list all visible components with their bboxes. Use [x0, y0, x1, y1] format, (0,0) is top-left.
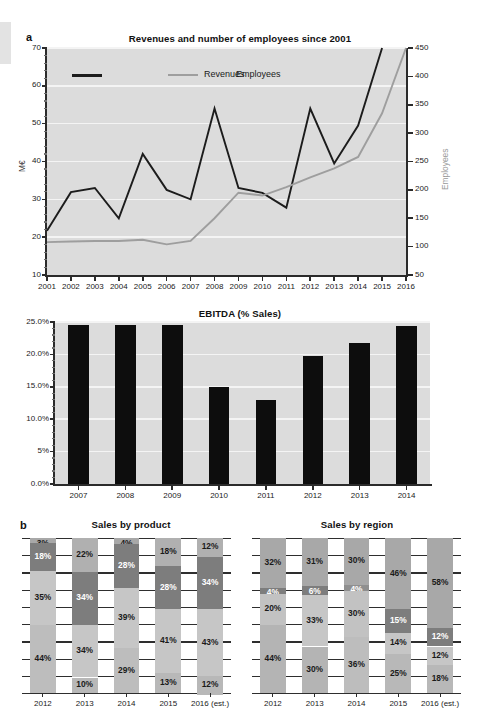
sales-by-region-segment-label: 58% — [427, 578, 453, 586]
sales-by-region-stack: 30%4%30%36% — [344, 538, 370, 693]
ebitda-plot-area — [55, 322, 430, 484]
legend-swatch-employees — [168, 74, 198, 76]
ebitda-x-tick-label: 2013 — [338, 491, 382, 500]
ebitda-y-minor-tick — [52, 341, 55, 342]
ebitda-bar — [115, 325, 136, 484]
ebitda-y-minor-tick — [52, 438, 55, 439]
panel-b-letter: b — [20, 519, 27, 531]
y-tick-label-left: 10 — [11, 270, 41, 279]
sales-by-product-segment: 44% — [30, 625, 56, 693]
sales-by-region-segment-label: 30% — [344, 609, 370, 617]
sales-by-region-stack: 58%12%12%18% — [427, 538, 453, 693]
sales-by-region-title: Sales by region — [262, 519, 452, 530]
ebitda-y-minor-tick — [52, 470, 55, 471]
ebitda-y-minor-tick — [52, 399, 55, 400]
legend-swatch-revenues — [72, 74, 102, 77]
sales-by-region-segment-label: 14% — [385, 638, 411, 646]
y-tick-label-right: 350 — [415, 99, 445, 108]
sales-by-region-stack: 32%4%20%44% — [260, 538, 286, 693]
sales-by-product-segment-label: 22% — [72, 550, 98, 558]
sales-by-region-segment-label: 15% — [385, 616, 411, 624]
ebitda-y-minor-tick — [52, 328, 55, 329]
ebitda-y-minor-tick — [52, 432, 55, 433]
sales-by-product-segment: 34% — [72, 572, 98, 625]
y-tick-label-left: 50 — [11, 118, 41, 127]
ebitda-y-minor-tick — [52, 347, 55, 348]
y-axis-left-title: M€ — [17, 160, 27, 172]
sales-by-region-segment: 12% — [427, 628, 453, 647]
ebitda-y-minor-tick — [52, 367, 55, 368]
sales-by-product-segment: 35% — [30, 571, 56, 625]
sales-by-region-stack: 31%6%33%30% — [302, 538, 328, 693]
sales-by-product-stack: 12%34%43%12% — [197, 538, 223, 693]
sales-by-product-stack: 4%28%39%29% — [114, 538, 140, 693]
ebitda-bar — [349, 343, 370, 484]
sales-by-region-segment-label: 18% — [427, 674, 453, 682]
sales-by-region-x-tick — [398, 693, 399, 697]
sales-by-region-segment-label: 6% — [302, 587, 328, 595]
sales-by-region-stack: 46%15%14%25% — [385, 538, 411, 693]
ebitda-x-tick — [171, 486, 173, 490]
ebitda-y-minor-tick — [52, 360, 55, 361]
sales-by-product-segment: 10% — [72, 678, 98, 694]
ebitda-bar — [303, 356, 324, 484]
y-tick-right — [408, 76, 413, 78]
sales-by-region-segment-label: 33% — [302, 616, 328, 624]
ebitda-bar — [209, 387, 230, 484]
sales-by-product-x-tick — [42, 693, 43, 697]
sales-by-region-x-tick — [356, 693, 357, 697]
sales-by-product-segment-label: 12% — [197, 542, 223, 550]
sales-by-region-segment-label: 36% — [344, 660, 370, 668]
sales-by-region-segment-label: 20% — [260, 604, 286, 612]
gridline — [55, 418, 430, 420]
sales-by-region-segment: 30% — [302, 647, 328, 694]
ebitda-y-minor-tick — [52, 406, 55, 407]
sales-by-region-segment-label: 46% — [385, 569, 411, 577]
ebitda-x-tick — [359, 486, 361, 490]
sales-by-region-x-tick-label: 2016 (est.) — [410, 699, 470, 708]
y-tick-right — [408, 217, 413, 219]
ebitda-x-tick-label: 2007 — [56, 491, 100, 500]
sales-by-product-segment-label: 28% — [155, 583, 181, 591]
ebitda-y-tick — [50, 451, 55, 453]
sales-by-region-segment: 44% — [260, 625, 286, 693]
ebitda-bar — [396, 326, 417, 484]
sales-by-product-segment-label: 13% — [155, 678, 181, 686]
y-tick-label-right: 50 — [415, 270, 445, 279]
ebitda-y-minor-tick — [52, 477, 55, 478]
sales-by-product-segment: 41% — [155, 609, 181, 673]
sales-by-region-segment: 18% — [427, 665, 453, 693]
sales-by-product-segment-label: 41% — [155, 636, 181, 644]
ebitda-y-tick-label: 10.0% — [9, 414, 49, 423]
sales-by-region-segment-label: 12% — [427, 651, 453, 659]
sales-by-product-segment-label: 35% — [30, 593, 56, 601]
ebitda-bar — [256, 400, 277, 484]
sales-by-product-segment: 18% — [155, 538, 181, 566]
sales-by-product-segment-label: 12% — [197, 680, 223, 688]
y-tick-label-right: 150 — [415, 213, 445, 222]
ebitda-x-tick-label: 2009 — [150, 491, 194, 500]
ebitda-y-tick — [50, 354, 55, 356]
sales-by-region-segment: 20% — [260, 594, 286, 625]
ebitda-y-minor-tick — [52, 425, 55, 426]
sales-by-region-segment: 58% — [427, 538, 453, 628]
sales-by-product-segment-label: 34% — [72, 593, 98, 601]
sales-by-product-segment: 34% — [197, 557, 223, 610]
sales-by-product-segment: 29% — [114, 648, 140, 693]
sales-by-product-segment-label: 34% — [72, 646, 98, 654]
sales-by-region-x-tick — [314, 693, 315, 697]
sales-by-product-segment-label: 28% — [114, 561, 140, 569]
ebitda-x-axis — [53, 484, 431, 486]
sales-by-region-segment-label: 30% — [344, 556, 370, 564]
y-tick-label-right: 400 — [415, 71, 445, 80]
ebitda-y-tick-label: 15.0% — [9, 381, 49, 390]
page-edge-marker — [0, 22, 11, 64]
sales-by-region-segment-label: 32% — [260, 558, 286, 566]
panel-a-letter: a — [26, 31, 32, 43]
ebitda-y-minor-tick — [52, 464, 55, 465]
sales-by-product-segment: 39% — [114, 588, 140, 648]
y-tick-right — [408, 189, 413, 191]
sales-by-region-segment: 6% — [302, 586, 328, 595]
ebitda-x-tick-label: 2012 — [291, 491, 335, 500]
ebitda-x-tick — [406, 486, 408, 490]
